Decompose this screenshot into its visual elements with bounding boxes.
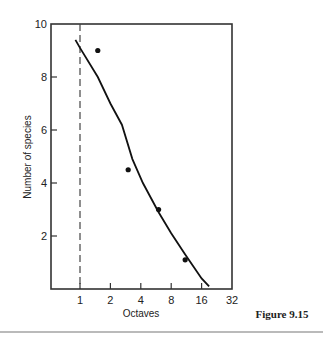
y-tick-label: 10 [35, 18, 47, 30]
figure-caption: Figure 9.15 [256, 308, 309, 320]
data-point [183, 257, 188, 262]
chart: 12481632 246810 Octaves Number of specie… [0, 0, 323, 341]
y-tick-label: 2 [41, 230, 47, 242]
fitted-curve [75, 40, 209, 287]
x-axis-ticks: 12481632 [77, 283, 238, 306]
y-axis-label: Number of species [22, 115, 33, 198]
y-tick-label: 6 [41, 124, 47, 136]
x-tick-label: 16 [195, 294, 207, 306]
data-point [95, 48, 100, 53]
data-point [156, 207, 161, 212]
data-points [95, 48, 188, 263]
x-axis-label: Octaves [123, 308, 160, 319]
data-point [126, 167, 131, 172]
x-tick-label: 1 [77, 294, 83, 306]
x-tick-label: 2 [107, 294, 113, 306]
x-tick-label: 32 [226, 294, 238, 306]
y-tick-label: 4 [41, 177, 47, 189]
y-axis-ticks: 246810 [35, 18, 57, 242]
plot-frame [51, 24, 232, 289]
x-tick-label: 4 [138, 294, 144, 306]
x-tick-label: 8 [168, 294, 174, 306]
y-tick-label: 8 [41, 71, 47, 83]
